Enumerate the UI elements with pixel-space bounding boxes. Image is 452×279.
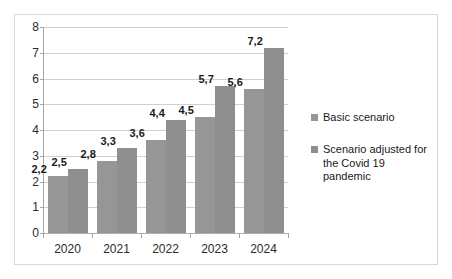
y-tick-mark (40, 182, 44, 183)
gridline (43, 233, 288, 234)
y-tick-mark (40, 53, 44, 54)
legend-item-adjusted-scenario[interactable]: Scenario adjusted forthe Covid 19 pandem… (311, 143, 433, 184)
bar-group-2020: 2,22,5 (48, 27, 88, 233)
legend-swatch-icon (311, 114, 318, 121)
bar-rect (215, 86, 235, 233)
x-tick-label-2022: 2022 (152, 243, 179, 255)
y-tick-label: 1 (17, 201, 39, 213)
bar-group-2023: 4,55,7 (195, 27, 235, 233)
y-tick-mark (40, 27, 44, 28)
bar-rect (166, 120, 186, 233)
y-tick-mark (40, 130, 44, 131)
x-tick-mark (288, 233, 289, 238)
bar-rect (68, 169, 88, 233)
bar-rect (244, 89, 264, 233)
y-tick-label: 6 (17, 73, 39, 85)
bar-value-label: 4,4 (150, 108, 165, 119)
bar-rect (146, 140, 166, 233)
legend-label: Scenario adjusted forthe Covid 19 pandem… (323, 143, 433, 184)
y-tick-label: 8 (17, 21, 39, 33)
bar-rect (195, 117, 215, 233)
bar-rect (48, 176, 68, 233)
chart-frame: 2,22,52,83,33,64,44,55,75,67,2 012345678… (14, 14, 438, 265)
y-tick-label: 2 (17, 176, 39, 188)
bar-value-label: 2,5 (52, 157, 67, 168)
x-tick-label-2021: 2021 (103, 243, 130, 255)
bar-rect (264, 48, 284, 233)
bar-value-label: 5,7 (199, 74, 214, 85)
bar-value-label: 2,8 (81, 149, 96, 160)
bar-rect (97, 161, 117, 233)
y-tick-mark (40, 104, 44, 105)
x-tick-label-2024: 2024 (250, 243, 277, 255)
x-tick-mark (43, 233, 44, 238)
y-tick-label: 7 (17, 47, 39, 59)
x-tick-mark (239, 233, 240, 238)
x-tick-label-2020: 2020 (54, 243, 81, 255)
y-tick-label: 0 (17, 227, 39, 239)
x-tick-label-2023: 2023 (201, 243, 228, 255)
bar-value-label: 7,2 (248, 36, 263, 47)
legend-item-basic-scenario[interactable]: Basic scenario (311, 111, 433, 125)
bar-value-label: 3,3 (101, 136, 116, 147)
y-tick-label: 4 (17, 124, 39, 136)
x-tick-mark (190, 233, 191, 238)
bar-group-2022: 3,64,4 (146, 27, 186, 233)
x-tick-mark (92, 233, 93, 238)
chart-legend: Basic scenario Scenario adjusted forthe … (311, 111, 433, 202)
x-axis-tick-labels: 20202021202220232024 (43, 239, 288, 259)
bar-rect (117, 148, 137, 233)
legend-label: Basic scenario (323, 111, 395, 125)
bar-value-label: 3,6 (130, 128, 145, 139)
y-tick-mark (40, 207, 44, 208)
plot-area: 2,22,52,83,33,64,44,55,75,67,2 (43, 27, 288, 233)
y-tick-label: 3 (17, 150, 39, 162)
bar-group-2024: 5,67,2 (244, 27, 284, 233)
bar-value-label: 5,6 (228, 77, 243, 88)
x-tick-mark (141, 233, 142, 238)
y-tick-mark (40, 156, 44, 157)
bar-value-label: 4,5 (179, 105, 194, 116)
y-tick-mark (40, 79, 44, 80)
legend-swatch-icon (311, 146, 318, 153)
y-tick-label: 5 (17, 98, 39, 110)
